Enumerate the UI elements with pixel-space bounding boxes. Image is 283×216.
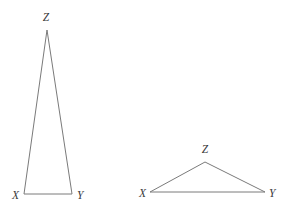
triangle-right-label-y: Y — [269, 187, 277, 199]
triangle-right-outline — [150, 162, 265, 192]
triangles-figure-canvas: Z X Y Z X Y — [0, 0, 283, 216]
triangle-left-label-x: X — [11, 189, 20, 201]
triangle-left: Z X Y — [11, 11, 85, 201]
triangle-right-label-z: Z — [202, 143, 209, 155]
figure-container: Z X Y Z X Y — [0, 0, 283, 216]
triangle-right: Z X Y — [138, 143, 277, 199]
triangle-left-label-y: Y — [77, 189, 85, 201]
triangle-right-label-x: X — [138, 187, 147, 199]
triangle-left-label-z: Z — [43, 11, 50, 23]
triangle-left-outline — [24, 30, 72, 194]
